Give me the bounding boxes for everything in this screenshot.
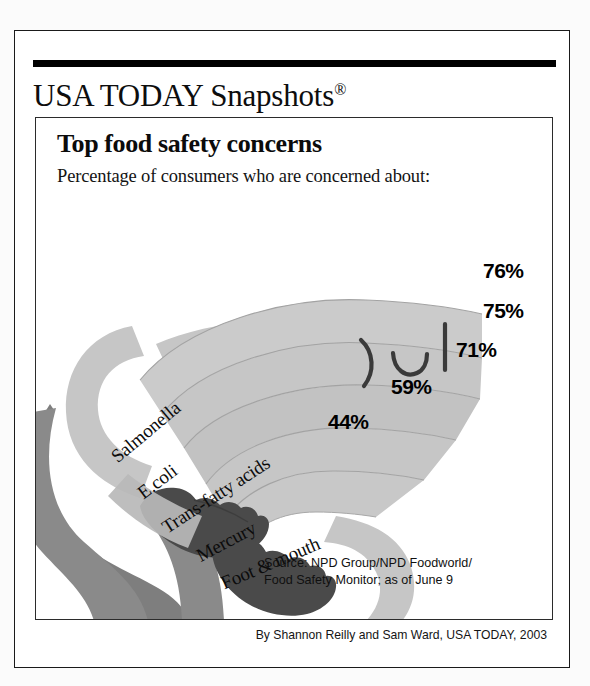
source-line-2: Food Safety Monitor; as of June 9 — [264, 572, 539, 589]
figure-arm-loop — [66, 326, 152, 498]
bar-value-salmonella: 76% — [483, 259, 524, 283]
bar-value-foot-and-mouth: 44% — [328, 410, 369, 434]
masthead-rule — [33, 60, 556, 67]
masthead-title: USA TODAY Snapshots® — [33, 68, 556, 112]
snapshot-infographic: USA TODAY Snapshots® Top food safety con… — [0, 0, 590, 686]
byline: By Shannon Reilly and Sam Ward, USA TODA… — [35, 628, 553, 642]
source-line-1: Source: NPD Group/NPD Foodworld/ — [264, 555, 539, 572]
bar-value-mercury: 59% — [391, 375, 432, 399]
bar-value-ecoli: 75% — [483, 299, 524, 323]
bar-value-trans-fatty-acids: 71% — [456, 338, 497, 362]
chart-panel: Top food safety concerns Percentage of c… — [35, 117, 553, 620]
source-note: Source: NPD Group/NPD Foodworld/ Food Sa… — [264, 555, 539, 588]
registered-trademark-icon: ® — [334, 81, 346, 98]
chart-illustration: Salmonella E.coli Trans-fatty acids Merc… — [36, 118, 553, 620]
masthead-brand: USA TODAY Snapshots — [33, 78, 334, 113]
